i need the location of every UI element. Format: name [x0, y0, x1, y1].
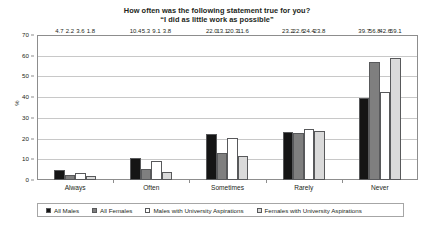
- y-axis-tick-labels: 010203040506070: [0, 35, 34, 180]
- chart-legend: All MalesAll FemalesMales with Universit…: [37, 203, 404, 217]
- chart-title-line-1: How often was the following statement tr…: [0, 6, 434, 15]
- legend-item[interactable]: Females with University Aspirations: [257, 207, 362, 214]
- bar[interactable]: 56.8: [369, 62, 380, 180]
- bar-group: 10.45.39.13.8: [113, 35, 189, 180]
- legend-item[interactable]: All Males: [46, 207, 79, 214]
- legend-item[interactable]: Males with University Aspirations: [145, 207, 243, 214]
- y-axis-tick-label: 30: [22, 115, 29, 121]
- chart-title: How often was the following statement tr…: [0, 6, 434, 25]
- y-axis-tick-label: 60: [22, 53, 29, 59]
- bar-value-label: 11.6: [238, 28, 249, 35]
- bar-slot: 10.4: [130, 35, 141, 180]
- bar[interactable]: 20.3: [227, 138, 238, 180]
- x-axis-category-label: Never: [371, 184, 389, 192]
- bar-slot: 2.2: [65, 35, 76, 180]
- bar-slot: 22.0: [206, 35, 217, 180]
- bar-value-label: 3.6: [76, 28, 84, 35]
- bar-slot: 1.8: [86, 35, 97, 180]
- bar[interactable]: 3.6: [75, 173, 86, 180]
- x-axis-category-label: Often: [143, 184, 159, 192]
- bar[interactable]: 23.2: [283, 132, 294, 180]
- bar-value-label: 9.1: [152, 28, 160, 35]
- bar-slot: 4.7: [54, 35, 65, 180]
- bar-value-label: 1.8: [87, 28, 95, 35]
- legend-swatch: [145, 208, 150, 213]
- x-axis-category-label: Rarely: [294, 184, 313, 192]
- bar[interactable]: 4.7: [54, 170, 65, 180]
- bar-slot: 23.2: [283, 35, 294, 180]
- legend-label: All Males: [54, 207, 79, 214]
- bar-slot: 56.8: [369, 35, 380, 180]
- bar[interactable]: 11.6: [238, 156, 249, 180]
- bar[interactable]: 10.4: [130, 158, 141, 180]
- y-axis-tick: [31, 117, 34, 118]
- y-axis-tick: [31, 180, 34, 181]
- bar-slot: 13.1: [217, 35, 228, 180]
- y-axis-tick-label: 0: [26, 177, 29, 183]
- legend-swatch: [46, 208, 51, 213]
- x-axis-category-label: Always: [65, 184, 86, 192]
- bar-groups: 4.72.23.61.810.45.39.13.822.013.120.311.…: [37, 35, 418, 180]
- bar-slot: 3.6: [75, 35, 86, 180]
- legend-item[interactable]: All Females: [92, 207, 132, 214]
- x-axis-tick: [342, 180, 343, 183]
- y-axis-tick: [31, 159, 34, 160]
- y-axis-tick-label: 40: [22, 94, 29, 100]
- bar[interactable]: 13.1: [217, 153, 228, 180]
- legend-label: Females with University Aspirations: [265, 207, 362, 214]
- legend-label: All Females: [100, 207, 132, 214]
- legend-swatch: [92, 208, 97, 213]
- bar-value-label: 2.2: [66, 28, 74, 35]
- x-axis-categories: AlwaysOftenSometimesRarelyNever: [37, 180, 418, 196]
- bar-slot: 24.4: [304, 35, 315, 180]
- bar-slot: 11.6: [238, 35, 249, 180]
- y-axis-tick: [31, 97, 34, 98]
- bar[interactable]: 22.6: [293, 133, 304, 180]
- bar-value-label: 59.1: [390, 28, 402, 35]
- bar[interactable]: 3.8: [162, 172, 173, 180]
- chart-title-line-2: “I did as little work as possible”: [0, 15, 434, 24]
- bar-value-label: 3.8: [163, 28, 171, 35]
- bar-group: 4.72.23.61.8: [37, 35, 113, 180]
- y-axis-tick: [31, 138, 34, 139]
- bar[interactable]: 59.1: [390, 58, 401, 180]
- legend-swatch: [257, 208, 262, 213]
- bar[interactable]: 9.1: [151, 161, 162, 180]
- bar-slot: 39.7: [359, 35, 370, 180]
- bar[interactable]: 42.6: [380, 92, 391, 180]
- y-axis-tick: [31, 55, 34, 56]
- bar-value-label: 4.7: [55, 28, 63, 35]
- bar-group: 39.756.842.659.1: [342, 35, 418, 180]
- x-axis-category-label: Sometimes: [211, 184, 244, 192]
- y-axis-tick-label: 20: [22, 135, 29, 141]
- bar[interactable]: 24.4: [304, 129, 315, 180]
- y-axis-tick-label: 10: [22, 156, 29, 162]
- x-axis-tick: [266, 180, 267, 183]
- bar-slot: 5.3: [141, 35, 152, 180]
- bar-slot: 22.6: [293, 35, 304, 180]
- bar-slot: 59.1: [390, 35, 401, 180]
- y-axis-tick: [31, 35, 34, 36]
- legend-label: Males with University Aspirations: [153, 207, 243, 214]
- bar-group: 22.013.120.311.6: [189, 35, 265, 180]
- bar-value-label: 5.3: [142, 28, 150, 35]
- y-axis-tick-label: 70: [22, 32, 29, 38]
- y-axis-tick: [31, 76, 34, 77]
- bar-value-label: 10.4: [130, 28, 142, 35]
- x-axis-tick: [113, 180, 114, 183]
- bar[interactable]: 22.0: [206, 134, 217, 180]
- chart-container: How often was the following statement tr…: [0, 0, 434, 231]
- bar[interactable]: 39.7: [359, 98, 370, 180]
- bar-value-label: 23.8: [314, 28, 326, 35]
- bar-group: 23.222.624.423.8: [266, 35, 342, 180]
- x-axis-tick: [189, 180, 190, 183]
- bar[interactable]: 5.3: [141, 169, 152, 180]
- bar-slot: 23.8: [314, 35, 325, 180]
- bar-slot: 20.3: [227, 35, 238, 180]
- bar-slot: 9.1: [151, 35, 162, 180]
- y-axis-tick-label: 50: [22, 73, 29, 79]
- bar[interactable]: 23.8: [314, 131, 325, 180]
- bar-slot: 3.8: [162, 35, 173, 180]
- bar-slot: 42.6: [380, 35, 391, 180]
